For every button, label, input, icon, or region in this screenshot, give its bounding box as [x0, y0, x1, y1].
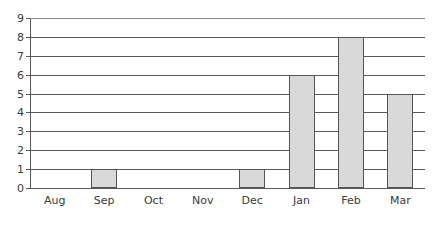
y-axis-tick-label: 4: [6, 107, 24, 118]
x-axis-label-oct: Oct: [144, 195, 163, 206]
plot-area: [30, 18, 425, 188]
y-axis-tick-label: 5: [6, 89, 24, 100]
x-axis-label-aug: Aug: [44, 195, 65, 206]
bar-jan[interactable]: [289, 75, 315, 188]
x-axis-label-nov: Nov: [192, 195, 213, 206]
gridline-0: [30, 188, 425, 189]
bar-mar[interactable]: [387, 94, 413, 188]
y-axis-tick-label: 6: [6, 70, 24, 81]
y-axis-tick-label: 9: [6, 13, 24, 24]
y-axis-tick-label: 7: [6, 51, 24, 62]
y-axis-tick-label: 3: [6, 126, 24, 137]
y-tick-0: [26, 188, 30, 189]
x-axis-label-dec: Dec: [242, 195, 263, 206]
y-axis-tick-label: 8: [6, 32, 24, 43]
x-axis-label-jan: Jan: [293, 195, 310, 206]
bar-dec[interactable]: [239, 169, 265, 188]
y-axis-tick-label: 0: [6, 183, 24, 194]
x-axis-label-sep: Sep: [94, 195, 115, 206]
y-axis-tick-label: 2: [6, 145, 24, 156]
x-axis-label-mar: Mar: [390, 195, 411, 206]
bar-sep[interactable]: [91, 169, 117, 188]
bar-feb[interactable]: [338, 37, 364, 188]
bar-chart: 0123456789 AugSepOctNovDecJanFebMar: [0, 0, 448, 226]
x-axis-label-feb: Feb: [341, 195, 360, 206]
y-axis-tick-label: 1: [6, 164, 24, 175]
